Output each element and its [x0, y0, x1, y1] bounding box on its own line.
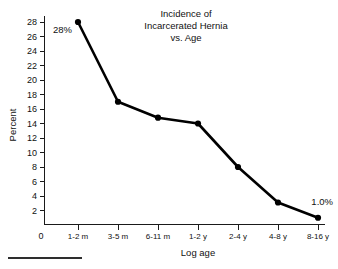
chart-figure: Incidence of Incarcerated Hernia vs. Age	[0, 0, 338, 269]
annotation-last-point: 1.0%	[311, 196, 333, 207]
y-axis-title: Percent	[7, 108, 18, 141]
x-tick-label: 6-11 m	[146, 232, 171, 241]
x-tick-label: 3-5 m	[108, 232, 129, 241]
y-tick-label: 6	[32, 177, 37, 187]
x-axis-ticks	[79, 225, 319, 230]
data-point-markers	[75, 19, 321, 221]
y-tick-label: 4	[32, 191, 37, 201]
y-tick-label: 2	[32, 206, 37, 216]
chart-title-line-2: Incarcerated Hernia	[144, 20, 228, 31]
y-tick-label: 10	[27, 148, 37, 158]
x-axis-title: Log age	[181, 247, 215, 258]
data-point-6-11 m	[155, 115, 161, 121]
y-tick-label: 14	[27, 119, 37, 129]
data-point-1-2 y	[195, 120, 201, 126]
footer-rule	[8, 257, 82, 259]
x-tick-label: 1-2 m	[68, 232, 89, 241]
x-tick-label: 4-8 y	[269, 232, 287, 241]
y-tick-label: 8	[32, 162, 37, 172]
incidence-line-chart: Incidence of Incarcerated Hernia vs. Age	[0, 0, 338, 269]
chart-title-line-1: Incidence of	[160, 8, 212, 19]
y-tick-label: 26	[27, 32, 37, 42]
y-tick-label: 12	[27, 133, 37, 143]
x-tick-label: 8-16 y	[307, 232, 329, 241]
data-series-line	[78, 22, 318, 218]
data-point-1-2 m	[75, 19, 81, 25]
y-tick-label: 24	[27, 46, 37, 56]
x-axis-tick-labels: 1-2 m 3-5 m 6-11 m 1-2 y 2-4 y 4-8 y 8-1…	[68, 232, 329, 241]
x-tick-label: 1-2 y	[189, 232, 207, 241]
data-point-4-8 y	[275, 199, 281, 205]
y-tick-label: 22	[27, 61, 37, 71]
x-tick-label: 2-4 y	[229, 232, 247, 241]
y-axis-tick-labels: 2 4 6 8 10 12 14 16 18 20 22 24 26 28	[27, 17, 37, 216]
data-point-2-4 y	[235, 164, 241, 170]
x-axis-origin-label: 0	[38, 231, 43, 241]
y-tick-label: 20	[27, 75, 37, 85]
chart-title-line-3: vs. Age	[170, 32, 201, 43]
y-tick-label: 18	[27, 90, 37, 100]
annotation-first-point: 28%	[53, 24, 73, 35]
y-tick-label: 16	[27, 104, 37, 114]
data-point-8-16 y	[315, 215, 321, 221]
y-axis-ticks	[40, 22, 45, 211]
data-point-3-5 m	[115, 99, 121, 105]
y-tick-label: 28	[27, 17, 37, 27]
